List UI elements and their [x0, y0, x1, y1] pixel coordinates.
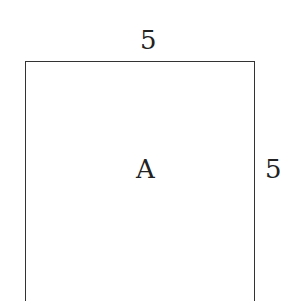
region-label: A	[136, 156, 155, 182]
top-side-length-label: 5	[140, 27, 157, 53]
right-side-length-label: 5	[265, 156, 282, 182]
